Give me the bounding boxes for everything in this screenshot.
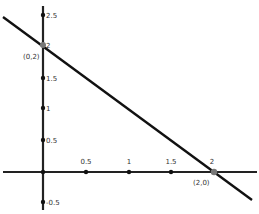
origin-dot: [41, 170, 45, 174]
y-tick-neg-0.5: [41, 200, 45, 204]
point-2-0: [211, 169, 217, 175]
y-tick-0.5: [41, 138, 45, 142]
y-label-neg-0.5: -0.5: [46, 199, 60, 207]
x-label-0.5: 0.5: [80, 158, 91, 166]
x-label-1: 1: [127, 158, 131, 166]
x-tick-1.5: [169, 170, 173, 174]
point-label-2-0: (2,0): [193, 179, 210, 187]
y-label-1.5: 1.5: [46, 75, 57, 83]
y-tick-2.5: [41, 13, 45, 17]
y-tick-1: [41, 106, 45, 110]
x-label-2: 2: [210, 158, 214, 166]
y-label-2.5: 2.5: [46, 12, 57, 20]
point-label-0-2: (0,2): [23, 53, 40, 61]
y-label-2: 2: [46, 42, 50, 50]
y-label-1: 1: [46, 105, 50, 113]
y-label-0.5: 0.5: [46, 137, 57, 145]
coordinate-plot: 0.5 1 1.5 2 2.5 2 1.5 1 0.5 -0.5 (0,2) (…: [0, 0, 259, 214]
y-tick-1.5: [41, 76, 45, 80]
x-tick-1: [127, 170, 131, 174]
x-label-1.5: 1.5: [165, 158, 176, 166]
x-tick-0.5: [84, 170, 88, 174]
